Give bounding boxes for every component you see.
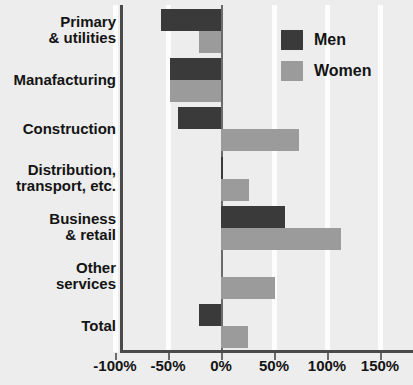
- bar-chart: Primary & utilitiesManafacturingConstruc…: [0, 0, 413, 385]
- bar-women-5[interactable]: [221, 277, 275, 299]
- bar-men-6[interactable]: [199, 304, 221, 326]
- category-label-0: Primary & utilities: [48, 14, 116, 46]
- bar-women-4[interactable]: [221, 228, 341, 250]
- bar-men-0[interactable]: [161, 9, 221, 31]
- category-label-1: Manafacturing: [13, 72, 116, 88]
- category-label-6: Total: [81, 318, 116, 334]
- men-swatch-icon: [281, 30, 303, 50]
- x-tick-label-1: -50%: [150, 357, 185, 374]
- bar-men-2[interactable]: [178, 107, 221, 129]
- y-axis-line: [120, 5, 123, 352]
- bar-men-4[interactable]: [221, 206, 285, 228]
- x-tick-label-0: -100%: [93, 357, 136, 374]
- category-label-2: Construction: [23, 121, 116, 137]
- women-swatch-icon: [281, 61, 303, 81]
- x-tick-label-5: 150%: [361, 357, 399, 374]
- x-tick-label-3: 50%: [259, 357, 289, 374]
- legend: Men Women: [281, 30, 401, 92]
- category-label-4: Business & retail: [49, 211, 116, 243]
- bar-women-2[interactable]: [221, 129, 299, 151]
- bar-men-1[interactable]: [170, 58, 221, 80]
- legend-item-men[interactable]: Men: [281, 30, 401, 50]
- legend-item-women[interactable]: Women: [281, 61, 401, 81]
- x-tick-label-4: 100%: [308, 357, 346, 374]
- bar-women-6[interactable]: [221, 326, 248, 348]
- bar-women-3[interactable]: [221, 179, 249, 201]
- bar-women-0[interactable]: [199, 31, 221, 53]
- x-axis-line: [120, 350, 413, 353]
- x-tick-label-2: 0%: [210, 357, 232, 374]
- category-label-3: Distribution, transport, etc.: [16, 162, 116, 194]
- legend-label-men: Men: [314, 31, 346, 49]
- legend-label-women: Women: [314, 62, 371, 80]
- category-label-5: Other services: [56, 260, 116, 292]
- bar-women-1[interactable]: [170, 80, 221, 102]
- bar-men-3[interactable]: [221, 157, 223, 179]
